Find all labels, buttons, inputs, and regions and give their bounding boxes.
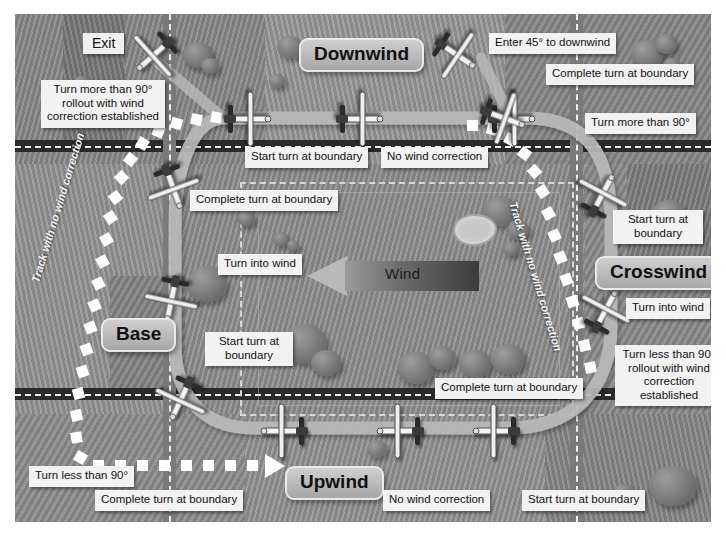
callout-turn-less-90-rollout: Turn less than 90° rollout with wind cor… — [615, 345, 711, 406]
traffic-pattern-scene: Wind Track with no wind correction Track… — [15, 14, 711, 522]
aircraft-downwind-2 — [327, 88, 389, 150]
no-wind-dash — [159, 460, 170, 471]
aircraft-upwind-3 — [467, 400, 529, 462]
aircraft-upwind-2 — [371, 400, 433, 462]
exit-label: Exit — [83, 33, 124, 54]
no-wind-dash — [70, 431, 83, 444]
callout-turn-less-90: Turn less than 90° — [29, 466, 134, 487]
callout-no-wind-correction-downwind: No wind correction — [381, 147, 488, 168]
callout-start-turn-boundary-upwind: Start turn at boundary — [522, 490, 645, 511]
callout-enter-45-downwind: Enter 45° to downwind — [489, 33, 616, 54]
wind-arrow: Wind — [307, 261, 479, 291]
callout-no-wind-correction-upwind: No wind correction — [383, 490, 490, 511]
callout-start-turn-boundary-crosswind: Start turn at boundary — [613, 210, 703, 244]
callout-turn-more-90: Turn more than 90° — [585, 113, 696, 134]
callout-start-turn-boundary-base: Start turn at boundary — [205, 332, 293, 366]
aircraft-downwind-1 — [215, 88, 277, 150]
no-wind-dash — [190, 113, 203, 126]
no-wind-dash — [584, 361, 597, 374]
downwind-plate: Downwind — [299, 38, 424, 72]
callout-start-turn-boundary-downwind: Start turn at boundary — [245, 147, 368, 168]
crosswind-plate: Crosswind — [595, 256, 711, 290]
no-wind-dash — [225, 460, 236, 471]
callout-turn-into-wind-left: Turn into wind — [218, 254, 302, 275]
callout-turn-more-90-rollout: Turn more than 90° rollout with wind cor… — [41, 80, 165, 128]
aircraft-upwind-1 — [255, 400, 317, 462]
callout-complete-turn-boundary-downwind-right: Complete turn at boundary — [546, 64, 694, 85]
no-wind-dash — [137, 460, 148, 471]
callout-complete-turn-boundary-crosswind-lower: Complete turn at boundary — [435, 378, 583, 399]
diagram-frame: Wind Track with no wind correction Track… — [0, 0, 726, 537]
no-wind-dash — [203, 460, 214, 471]
wind-label: Wind — [385, 265, 420, 282]
callout-complete-turn-boundary-upwind-left: Complete turn at boundary — [95, 490, 243, 511]
no-wind-dash — [181, 460, 192, 471]
base-plate: Base — [101, 318, 176, 352]
callout-turn-into-wind-right: Turn into wind — [626, 298, 710, 319]
callout-complete-turn-boundary-base-upper: Complete turn at boundary — [190, 190, 338, 211]
upwind-plate: Upwind — [285, 466, 384, 500]
wind-arrowhead-icon — [307, 256, 347, 296]
